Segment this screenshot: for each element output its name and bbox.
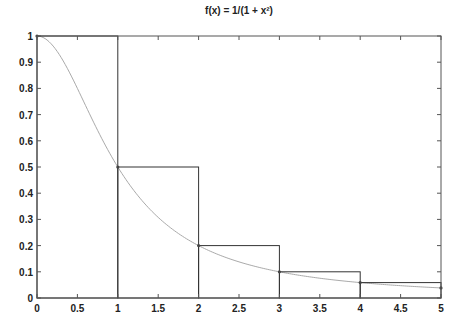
y-tick-label: 0.8 bbox=[19, 83, 33, 94]
x-tick-label: 3.5 bbox=[313, 303, 327, 314]
y-tick-label: 0.2 bbox=[19, 241, 33, 252]
sample-point bbox=[116, 165, 119, 168]
x-tick-label: 1 bbox=[115, 303, 121, 314]
x-tick-label: 2 bbox=[196, 303, 202, 314]
y-tick-label: 0.4 bbox=[19, 188, 33, 199]
x-tick-label: 5 bbox=[438, 303, 444, 314]
chart-title: f(x) = 1/(1 + x²) bbox=[205, 5, 273, 16]
chart: f(x) = 1/(1 + x²) 00.511.522.533.544.55 … bbox=[0, 0, 461, 328]
x-tick-label: 4 bbox=[357, 303, 363, 314]
y-tick-label: 0.1 bbox=[19, 267, 33, 278]
y-tick-label: 1 bbox=[27, 31, 33, 42]
y-tick-label: 0 bbox=[27, 293, 33, 304]
y-tick-label: 0.9 bbox=[19, 57, 33, 68]
x-tick-label: 4.5 bbox=[394, 303, 408, 314]
plot-area bbox=[37, 36, 441, 298]
y-tick-label: 0.3 bbox=[19, 214, 33, 225]
x-tick-label: 2.5 bbox=[232, 303, 246, 314]
x-tick-label: 0.5 bbox=[70, 303, 84, 314]
y-tick-label: 0.7 bbox=[19, 110, 33, 121]
x-tick-label: 3 bbox=[277, 303, 283, 314]
y-tick-label: 0.6 bbox=[19, 136, 33, 147]
plot-background bbox=[37, 36, 441, 298]
sample-point bbox=[197, 244, 200, 247]
sample-point bbox=[359, 281, 362, 284]
x-tick-label: 0 bbox=[34, 303, 40, 314]
sample-point bbox=[278, 270, 281, 273]
x-tick-label: 1.5 bbox=[151, 303, 165, 314]
y-tick-label: 0.5 bbox=[19, 162, 33, 173]
